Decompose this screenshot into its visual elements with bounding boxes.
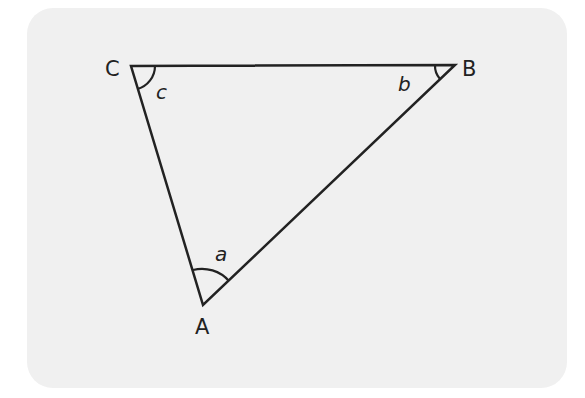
vertex-label-c: C bbox=[105, 57, 120, 81]
angle-label-b: b bbox=[398, 72, 411, 96]
angle-label-a: a bbox=[215, 242, 227, 266]
angle-arc-c bbox=[138, 66, 156, 89]
triangle-diagram: C B A c b a bbox=[0, 0, 585, 398]
vertex-label-b: B bbox=[462, 57, 476, 81]
triangle-abc bbox=[131, 65, 455, 305]
angle-label-c: c bbox=[156, 80, 167, 104]
angle-arc-a bbox=[193, 269, 229, 281]
vertex-label-a: A bbox=[195, 315, 210, 339]
angle-arc-b bbox=[435, 65, 440, 79]
